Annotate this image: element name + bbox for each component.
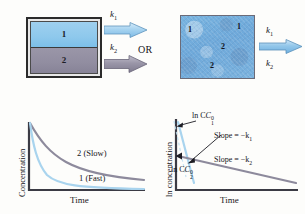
- chart2-intercept-2-label: ln CC02: [171, 165, 194, 174]
- separated-compartments-box: 1 2: [26, 17, 102, 78]
- chart2-slope-2-label: Slope = −k2: [214, 155, 252, 166]
- ln-concentration-vs-time-chart: ln concentration ln CC01 Slope: [152, 105, 305, 214]
- chart2-leader-lnc1: [181, 121, 196, 125]
- mixed-particle-1b: 1: [237, 22, 241, 31]
- mixed-solution-box: 1 1 2 2: [180, 15, 255, 79]
- or-connector-text: OR: [138, 44, 153, 55]
- arrow-k2: [104, 55, 148, 73]
- arrow-k2-glyph: [104, 55, 148, 73]
- compartment-species-2: 2: [31, 48, 97, 73]
- arrow-k1-k2-glyph: [259, 39, 303, 54]
- compartment-2-label: 2: [31, 55, 97, 65]
- k2-label-left: k2: [110, 42, 117, 54]
- compartment-species-1: 1: [31, 22, 97, 48]
- mixed-particle-2b: 2: [210, 61, 214, 70]
- chart1-y-axis-label: Concentration: [17, 149, 27, 197]
- mixed-particle-1a: 1: [188, 25, 192, 34]
- arrow-k1: [104, 22, 148, 38]
- k2-label-right: k2: [266, 58, 273, 70]
- k1-label-left: k1: [110, 9, 117, 21]
- arrow-k1-glyph: [104, 22, 148, 38]
- chart2-x-axis-label: Time: [220, 195, 239, 205]
- compartments-inner: 1 2: [30, 21, 98, 74]
- compartment-1-label: 1: [31, 29, 97, 39]
- chart1-label-slow: 2 (Slow): [77, 148, 107, 158]
- chart1-label-fast: 1 (Fast): [79, 173, 105, 183]
- concentration-vs-time-chart: Concentration 2 (Slow) 1 (Fast) Time: [0, 105, 152, 214]
- chart2-intercept-1-label: ln CC01: [192, 111, 215, 120]
- arrow-k1-k2: [259, 39, 303, 54]
- chart1-x-axis-label: Time: [70, 195, 89, 205]
- k1-label-right: k1: [266, 25, 273, 37]
- mixed-particle-2a: 2: [221, 42, 225, 51]
- chart2-slope-1-label: Slope = −k1: [214, 131, 252, 142]
- kinetics-figure: 1 2 k1 k2: [0, 0, 305, 214]
